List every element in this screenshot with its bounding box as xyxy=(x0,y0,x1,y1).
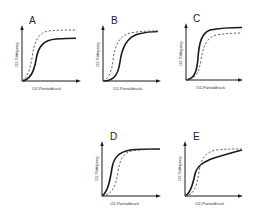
x-axis-label: O2-Partialdruck xyxy=(195,201,224,206)
oxygen-dissociation-plot xyxy=(0,0,255,215)
y-axis-label: O2-Sättigung xyxy=(177,156,182,181)
panel-e: E O2-Sättigung O2-Partialdruck xyxy=(0,0,255,215)
